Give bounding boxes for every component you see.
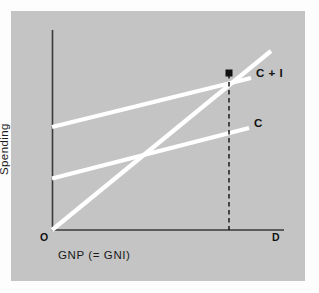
x-axis-end-label: D bbox=[272, 231, 280, 243]
curve-label-c: C bbox=[254, 117, 263, 129]
chart-plot-area bbox=[0, 0, 319, 293]
y-axis-title: Spending bbox=[0, 123, 10, 175]
curve-label-c-plus-i: C + I bbox=[256, 67, 283, 79]
x-axis-title: GNP (= GNI) bbox=[58, 249, 131, 261]
c-plus-i-line bbox=[52, 78, 251, 127]
forty-five-degree-line bbox=[52, 51, 271, 230]
c-consumption-line bbox=[52, 128, 249, 179]
origin-label: O bbox=[40, 231, 48, 243]
equilibrium-point-marker bbox=[226, 70, 233, 77]
economics-chart-figure: C + I C O D GNP (= GNI) Spending bbox=[0, 0, 319, 293]
